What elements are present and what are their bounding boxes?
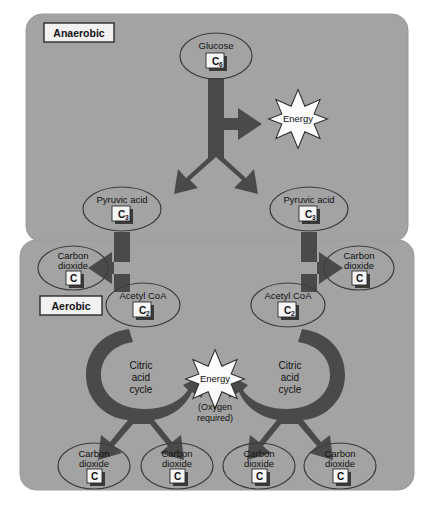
co2-bottom-3-carbon: C bbox=[256, 471, 263, 482]
anaerobic-energy-label: Energy bbox=[283, 113, 313, 124]
citric-cycle-right-label: Citric acid cycle bbox=[279, 360, 302, 395]
citric-left-line3: cycle bbox=[130, 384, 153, 395]
co2-bottom-2-line2: dioxide bbox=[162, 458, 192, 469]
co2-upper-right-line2: dioxide bbox=[344, 260, 374, 271]
co2-bottom-2-carbon: C bbox=[174, 471, 181, 482]
co2-upper-left-line2: dioxide bbox=[58, 260, 88, 271]
co2-bottom-1-line2: dioxide bbox=[79, 458, 109, 469]
co2-bottom-3-line2: dioxide bbox=[244, 458, 274, 469]
respiration-diagram: Energy Energy (Oxygen required) Citric a… bbox=[0, 0, 431, 519]
citric-left-line2: acid bbox=[132, 372, 150, 383]
citric-right-line2: acid bbox=[281, 372, 299, 383]
citric-right-line3: cycle bbox=[279, 384, 302, 395]
co2-bottom-4-line2: dioxide bbox=[325, 458, 355, 469]
aerobic-label-box: Aerobic bbox=[40, 296, 102, 315]
anaerobic-label-box: Anaerobic bbox=[44, 23, 114, 42]
co2-upper-left-carbon: C bbox=[70, 273, 77, 284]
glucose-carbon-subscript: 6 bbox=[219, 61, 223, 68]
pyruvic-left-carbon-subscript: 3 bbox=[125, 214, 129, 221]
oxygen-required-line1: (Oxygen bbox=[198, 402, 232, 412]
pyruvic-right-carbon-subscript: 3 bbox=[312, 214, 316, 221]
pyruvic-right-label: Pyruvic acid bbox=[283, 194, 334, 205]
aerobic-energy-label: Energy bbox=[200, 373, 230, 384]
citric-left-line1: Citric bbox=[130, 360, 153, 371]
figure-root: Energy Energy (Oxygen required) Citric a… bbox=[0, 0, 431, 519]
citric-cycle-left-label: Citric acid cycle bbox=[130, 360, 153, 395]
acetyl-right-label: Acetyl CoA bbox=[265, 290, 313, 301]
co2-bottom-1-carbon: C bbox=[91, 471, 98, 482]
glucose-label: Glucose bbox=[199, 40, 234, 51]
co2-bottom-4-carbon: C bbox=[337, 471, 344, 482]
acetyl-left-carbon-subscript: 2 bbox=[146, 310, 150, 317]
co2-upper-right-carbon: C bbox=[356, 273, 363, 284]
acetyl-left-label: Acetyl CoA bbox=[120, 290, 168, 301]
acetyl-right-carbon-subscript: 2 bbox=[291, 310, 295, 317]
anaerobic-label-text: Anaerobic bbox=[53, 27, 105, 39]
aerobic-label-text: Aerobic bbox=[51, 300, 90, 312]
oxygen-required-line2: required) bbox=[197, 413, 233, 423]
pyruvic-left-label: Pyruvic acid bbox=[96, 194, 147, 205]
citric-right-line1: Citric bbox=[279, 360, 302, 371]
